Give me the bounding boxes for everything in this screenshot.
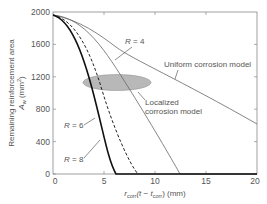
r6-arrow — [84, 118, 95, 125]
plot-frame — [53, 12, 257, 174]
y-tick-1200: 1200 — [31, 72, 50, 82]
svg-text:Remaining reinforcement area: Remaining reinforcement area — [7, 39, 16, 147]
x-tick-10: 10 — [150, 176, 160, 186]
x-ticks — [104, 12, 206, 174]
annotation-localized-2: corrosion model — [145, 107, 202, 116]
y-tick-800: 800 — [36, 104, 50, 114]
localized-arrow — [138, 92, 145, 100]
r4-curve — [53, 15, 257, 174]
x-axis-label: rcorr(t − tcorr) (mm) — [124, 189, 186, 199]
annotation-r6: R = 6 — [64, 121, 84, 130]
annotation-r8: R = 8 — [64, 155, 84, 164]
x-tick-5: 5 — [102, 176, 107, 186]
annotation-uniform: Uniform corrosion model — [164, 60, 251, 69]
y-tick-400: 400 — [36, 137, 50, 147]
y-tick-0: 0 — [45, 169, 50, 179]
y-tick-1600: 1600 — [31, 39, 50, 49]
uniform-arrow — [175, 70, 178, 79]
r4-arrow — [115, 47, 132, 60]
x-tick-20: 20 — [250, 176, 260, 186]
annotation-r4: R = 4 — [125, 37, 145, 46]
x-tick-15: 15 — [201, 176, 211, 186]
r8-curve — [53, 15, 257, 174]
x-tick-0: 0 — [53, 176, 58, 186]
r8-arrow — [84, 140, 100, 158]
chart: 0 400 800 1200 1600 2000 0 5 10 15 20 rc… — [0, 0, 267, 204]
y-axis-label: Remaining reinforcement area Aw (mm2) — [7, 39, 27, 147]
svg-text:Aw (mm2): Aw (mm2) — [16, 76, 27, 111]
localized-model-ellipse — [83, 75, 151, 91]
y-tick-2000: 2000 — [31, 7, 50, 17]
annotation-localized-1: Localized — [145, 98, 179, 107]
